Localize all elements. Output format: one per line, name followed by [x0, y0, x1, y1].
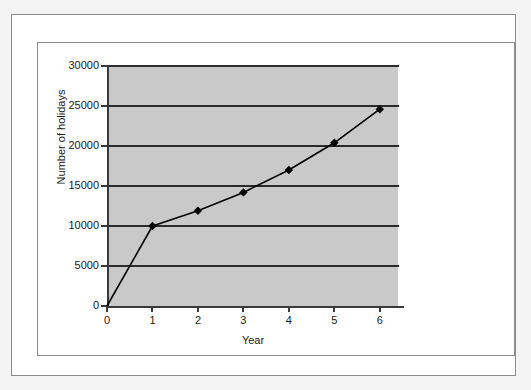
chart-plot-region: 050001000015000200002500030000 0123456 Y…	[38, 43, 516, 357]
data-point-marker	[239, 188, 247, 196]
data-point-marker	[285, 166, 293, 174]
data-point-marker	[148, 222, 156, 230]
series-line	[152, 109, 379, 226]
y-axis-title: Number of holidays	[55, 62, 67, 212]
outer-page-frame: 050001000015000200002500030000 0123456 Y…	[11, 14, 516, 376]
data-series-layer	[38, 43, 516, 357]
data-point-marker	[194, 207, 202, 215]
x-axis-title: Year	[107, 334, 399, 346]
series-line-origin-segment	[107, 226, 152, 306]
page-root: 050001000015000200002500030000 0123456 Y…	[0, 0, 531, 390]
chart-frame: 050001000015000200002500030000 0123456 Y…	[37, 42, 515, 356]
